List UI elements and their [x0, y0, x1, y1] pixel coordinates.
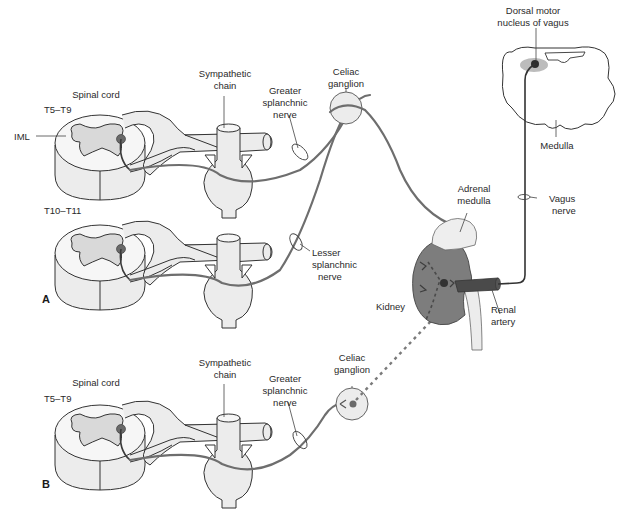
- label-sympathetic-a-2: chain: [214, 80, 237, 91]
- label-celiac-a-2: ganglion: [328, 78, 364, 89]
- label-sympathetic-b-2: chain: [214, 369, 237, 380]
- label-vagus-2: nerve: [552, 205, 576, 216]
- label-celiac-a-1: Celiac: [333, 66, 360, 77]
- label-adrenal-1: Adrenal: [458, 183, 491, 194]
- label-greater-a-2: splanchnic: [263, 97, 308, 108]
- label-spinal-cord-b: Spinal cord: [72, 377, 120, 388]
- label-vagus-1: Vagus: [549, 193, 575, 204]
- label-greater-b-3: nerve: [273, 397, 297, 408]
- label-kidney: Kidney: [376, 301, 405, 312]
- label-t10-t11: T10–T11: [44, 205, 81, 216]
- panel-b-segment-t5-t9: [55, 401, 340, 508]
- label-renal-2: artery: [491, 316, 516, 327]
- diagram-canvas: Spinal cord T5–T9 IML Sympathetic chain …: [0, 0, 629, 518]
- label-lesser-2: splanchnic: [312, 259, 357, 270]
- label-greater-b-2: splanchnic: [263, 385, 308, 396]
- label-adrenal-2: medulla: [457, 195, 491, 206]
- panel-label-a: A: [42, 293, 50, 305]
- nerve-sheath-icon: [518, 195, 530, 200]
- label-t5-t9-a: T5–T9: [44, 104, 71, 115]
- label-renal-1: Renal: [491, 304, 516, 315]
- label-celiac-b-1: Celiac: [339, 352, 366, 363]
- label-greater-b-1: Greater: [269, 373, 301, 384]
- panel-label-b: B: [42, 478, 50, 490]
- renal-innervation-diagram: Spinal cord T5–T9 IML Sympathetic chain …: [0, 0, 629, 518]
- panel-a-segment-t5-t9: [55, 95, 370, 218]
- label-lesser-3: nerve: [318, 271, 342, 282]
- nerve-sheath-icon: [289, 141, 310, 162]
- label-greater-a-3: nerve: [273, 109, 297, 120]
- label-dorsal-1: Dorsal motor: [506, 5, 560, 16]
- label-medulla: Medulla: [540, 140, 574, 151]
- adrenal-medulla-shape: [432, 219, 477, 251]
- kidney-group: [413, 219, 501, 351]
- label-greater-a-1: Greater: [269, 85, 301, 96]
- label-t5-t9-b: T5–T9: [44, 393, 71, 404]
- label-spinal-cord-a: Spinal cord: [72, 89, 120, 100]
- label-iml: IML: [14, 131, 30, 142]
- postganglionic-neuron: [350, 401, 357, 408]
- label-sympathetic-a-1: Sympathetic: [199, 68, 252, 79]
- label-celiac-b-2: ganglion: [334, 364, 370, 375]
- label-dorsal-2: nucleus of vagus: [497, 17, 569, 28]
- label-sympathetic-b-1: Sympathetic: [199, 357, 252, 368]
- kidney-neuron: [440, 279, 448, 287]
- medulla-group: [498, 47, 615, 284]
- label-lesser-1: Lesser: [312, 247, 341, 258]
